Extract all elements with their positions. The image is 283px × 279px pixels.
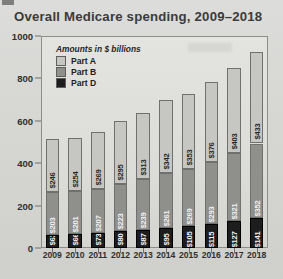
legend-title: Amounts in $ billions (56, 44, 141, 54)
y-tick-label: 1000 (12, 31, 33, 42)
y-tick-label: 0 (28, 243, 33, 254)
bar-segment-part-d[interactable]: $105 (182, 226, 196, 248)
bar-segment-value-label: $203 (48, 217, 57, 233)
bar-segment-part-a[interactable]: $376 (205, 82, 219, 162)
bar-segment-value-label: $223 (116, 214, 125, 230)
y-tick-label: 800 (17, 73, 33, 84)
bar-segment-value-label: $73 (93, 233, 102, 245)
bar-group[interactable]: $115$293$376 (205, 36, 219, 248)
x-tick-mark (143, 248, 144, 253)
bar-segment-value-label: $433 (252, 124, 261, 140)
bar-segment-value-label: $295 (116, 164, 125, 180)
x-tick-mark (75, 248, 76, 253)
legend-entry[interactable]: Part A (56, 56, 141, 66)
bar-segment-part-b[interactable]: $203 (46, 192, 60, 235)
bar-segment-part-b[interactable]: $293 (205, 162, 219, 224)
bar-group[interactable]: $127$321$403 (227, 36, 241, 248)
bar-segment-value-label: $342 (161, 153, 170, 169)
bar-segment-part-a[interactable]: $433 (250, 52, 264, 144)
bar-segment-part-d[interactable]: $141 (250, 218, 264, 248)
bar-segment-part-d[interactable]: $95 (159, 228, 173, 248)
bar-segment-part-b[interactable]: $269 (182, 169, 196, 226)
bar-segment-part-b[interactable]: $223 (114, 184, 128, 231)
bar-segment-value-label: $313 (139, 159, 148, 175)
bar-segment-value-label: $254 (71, 172, 80, 188)
bar-segment-value-label: $141 (252, 231, 261, 247)
chart-figure: Overall Medicare spending, 2009–2018 020… (0, 0, 283, 279)
bar-segment-part-b[interactable]: $239 (136, 179, 150, 230)
legend-swatch-icon (56, 67, 66, 77)
bar-segment-part-a[interactable]: $403 (227, 68, 241, 153)
x-tick-mark (166, 248, 167, 253)
bar-segment-part-a[interactable]: $313 (136, 113, 150, 179)
scan-artifact-speck (2, 0, 14, 5)
bar-segment-value-label: $66 (71, 234, 80, 246)
bar-segment-value-label: $269 (184, 208, 193, 224)
legend-label: Part B (71, 67, 96, 77)
legend-label: Part D (71, 78, 96, 88)
bar-segment-part-a[interactable]: $342 (159, 100, 173, 173)
chart-title: Overall Medicare spending, 2009–2018 (14, 9, 262, 24)
bar-segment-part-d[interactable]: $87 (136, 230, 150, 248)
y-axis: 02004006008001000 (0, 36, 38, 248)
bar-segment-part-b[interactable]: $201 (68, 191, 82, 234)
legend-swatch-icon (56, 78, 66, 88)
bar-segment-part-a[interactable]: $269 (91, 132, 105, 189)
legend-label: Part A (71, 56, 96, 66)
x-tick-mark (257, 248, 258, 253)
bar-segment-value-label: $87 (139, 233, 148, 245)
x-tick-mark (98, 248, 99, 253)
x-tick-mark (189, 248, 190, 253)
bar-segment-value-label: $95 (161, 233, 170, 245)
bar-segment-part-d[interactable]: $80 (114, 231, 128, 248)
bar-segment-value-label: $80 (116, 233, 125, 245)
legend-entry[interactable]: Part D (56, 78, 141, 88)
bar-segment-part-a[interactable]: $254 (68, 138, 82, 192)
bar-group[interactable]: $95$261$342 (159, 36, 173, 248)
bar-segment-value-label: $246 (48, 172, 57, 188)
y-tick-label: 200 (17, 200, 33, 211)
legend-entry[interactable]: Part B (56, 67, 141, 77)
y-tick-label: 600 (17, 115, 33, 126)
bar-segment-value-label: $269 (93, 169, 102, 185)
bar-segment-part-a[interactable]: $295 (114, 121, 128, 184)
bar-group[interactable]: $141$352$433 (250, 36, 264, 248)
bar-group[interactable]: $105$269$353 (182, 36, 196, 248)
bar-segment-value-label: $353 (184, 149, 193, 165)
bar-segment-value-label: $63 (48, 235, 57, 246)
bar-segment-part-b[interactable]: $352 (250, 144, 264, 219)
x-tick-mark (52, 248, 53, 253)
bar-segment-value-label: $352 (252, 201, 261, 217)
bar-segment-part-d[interactable]: $115 (205, 224, 219, 248)
bar-segment-value-label: $376 (207, 142, 216, 158)
bar-segment-value-label: $403 (229, 133, 238, 149)
bar-segment-value-label: $321 (229, 204, 238, 220)
x-tick-mark (211, 248, 212, 253)
bar-segment-part-b[interactable]: $321 (227, 153, 241, 221)
x-tick-mark (234, 248, 235, 253)
legend-entries: Part APart BPart D (56, 56, 141, 88)
bar-segment-part-d[interactable]: $63 (46, 235, 60, 248)
bar-segment-part-a[interactable]: $246 (46, 139, 60, 191)
bar-segment-value-label: $261 (161, 210, 170, 226)
bar-segment-value-label: $239 (139, 212, 148, 228)
bar-segment-part-d[interactable]: $66 (68, 234, 82, 248)
bar-segment-part-b[interactable]: $207 (91, 189, 105, 233)
bar-segment-value-label: $201 (71, 216, 80, 232)
bar-segment-part-b[interactable]: $261 (159, 173, 173, 228)
bar-segment-part-d[interactable]: $73 (91, 233, 105, 248)
chart-legend: Amounts in $ billions Part APart BPart D (52, 42, 145, 91)
bar-segment-value-label: $127 (229, 231, 238, 247)
bar-segment-value-label: $105 (184, 231, 193, 247)
bar-segment-value-label: $293 (207, 206, 216, 222)
bar-segment-part-a[interactable]: $353 (182, 94, 196, 169)
bar-segment-value-label: $207 (93, 215, 102, 231)
legend-swatch-icon (56, 56, 66, 66)
x-tick-mark (120, 248, 121, 253)
bar-segment-value-label: $115 (207, 232, 216, 248)
y-tick-label: 400 (17, 158, 33, 169)
bar-segment-part-d[interactable]: $127 (227, 221, 241, 248)
